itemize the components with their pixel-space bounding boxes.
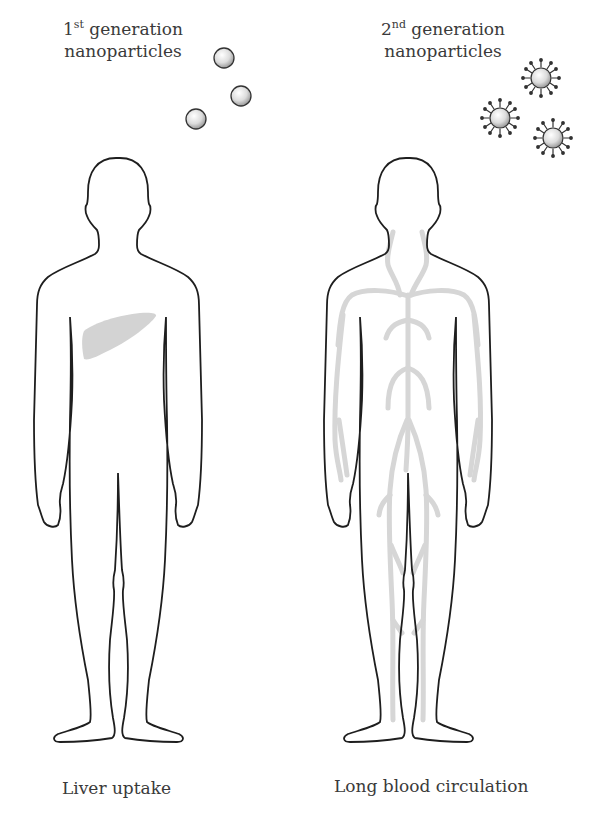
body-outline — [34, 158, 202, 742]
first-gen-caption: Liver uptake — [62, 778, 171, 798]
nanoparticle-icon — [231, 86, 251, 106]
coated-nanoparticle-icon — [481, 99, 520, 138]
first-gen-particles — [186, 48, 251, 129]
human-figure-circulation — [324, 158, 492, 742]
second-gen-caption: Long blood circulation — [334, 776, 528, 796]
human-figure-liver — [34, 158, 202, 742]
liver-highlight — [82, 313, 156, 360]
nanoparticle-icon — [214, 48, 234, 68]
nanoparticle-icon — [186, 109, 206, 129]
coated-nanoparticle-icon — [534, 119, 573, 158]
coated-nanoparticle-icon — [522, 59, 561, 98]
second-gen-particles — [481, 59, 573, 158]
diagram-canvas — [0, 0, 614, 837]
